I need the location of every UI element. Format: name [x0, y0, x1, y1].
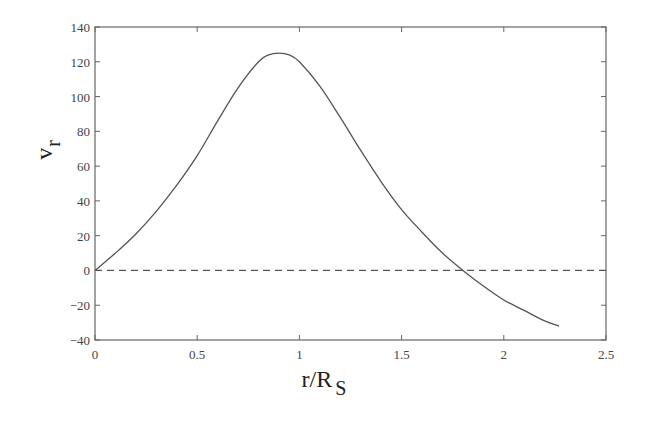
x-tick-label: 0.5 — [189, 347, 205, 362]
plot-frame — [95, 27, 606, 340]
x-tick-label: 2 — [501, 347, 508, 362]
y-tick-label: 0 — [84, 263, 91, 278]
velocity-curve — [95, 53, 559, 326]
x-tick-label: 0 — [92, 347, 99, 362]
y-tick-label: 60 — [77, 159, 90, 174]
y-axis-label: vr — [31, 140, 64, 160]
x-tick-label: 2.5 — [598, 347, 614, 362]
y-tick-label: 140 — [71, 20, 91, 35]
x-axis-label: r/RS — [302, 366, 347, 399]
chart: 00.511.522.5 −40−20020406080100120140 r/… — [0, 0, 647, 429]
y-tick-labels: −40−20020406080100120140 — [70, 20, 90, 348]
y-tick-label: 100 — [71, 90, 91, 105]
y-tick-label: 120 — [71, 55, 91, 70]
y-tick-label: −40 — [70, 333, 90, 348]
axis-ticks — [95, 27, 606, 340]
y-tick-label: −20 — [70, 298, 90, 313]
y-tick-label: 80 — [77, 124, 90, 139]
y-tick-label: 40 — [77, 194, 90, 209]
x-tick-label: 1 — [296, 347, 303, 362]
y-tick-label: 20 — [77, 229, 90, 244]
x-tick-label: 1.5 — [393, 347, 409, 362]
x-tick-labels: 00.511.522.5 — [92, 347, 614, 362]
data-series — [95, 53, 606, 326]
